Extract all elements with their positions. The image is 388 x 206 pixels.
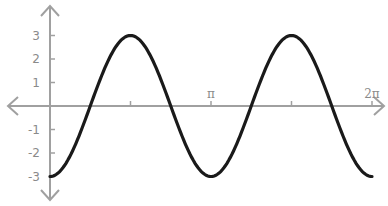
axes	[8, 6, 384, 200]
y-tick-label: 2	[32, 52, 40, 66]
y-tick-label: -1	[28, 123, 40, 137]
cosine-chart: 321-1-2-3π2π	[0, 0, 388, 206]
x-tick-label: π	[207, 87, 215, 101]
y-tick-label: 3	[32, 29, 40, 43]
y-tick-label: -3	[28, 170, 40, 184]
x-tick-label: 2π	[364, 87, 380, 101]
y-tick-label: 1	[32, 76, 40, 90]
y-tick-label: -2	[28, 146, 40, 160]
